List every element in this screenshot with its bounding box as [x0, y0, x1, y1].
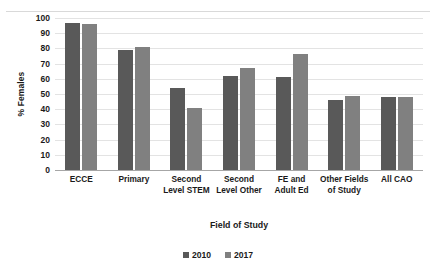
x-axis-title: Field of Study — [55, 220, 423, 230]
x-tick-label: Second Level Other — [213, 174, 266, 196]
bar[interactable] — [293, 54, 308, 170]
bar[interactable] — [187, 108, 202, 170]
y-tick-label: 40 — [41, 105, 50, 114]
legend-item[interactable]: 2017 — [225, 250, 253, 260]
x-tick-label: Primary — [108, 174, 161, 196]
y-tick-label: 90 — [41, 29, 50, 38]
bar[interactable] — [240, 68, 255, 170]
y-axis-title-text: % Females — [16, 72, 26, 117]
y-axis-title: % Females — [14, 58, 28, 130]
x-tick-label: ECCE — [55, 174, 108, 196]
y-tick-label: 100 — [36, 14, 50, 23]
x-tick-label: All CAO — [370, 174, 423, 196]
bar-group — [55, 18, 108, 170]
legend-item[interactable]: 2010 — [183, 250, 211, 260]
legend-swatch-icon — [225, 252, 231, 258]
y-tick-label: 60 — [41, 75, 50, 84]
bar[interactable] — [328, 100, 343, 170]
bar[interactable] — [223, 76, 238, 170]
y-tick-label: 70 — [41, 59, 50, 68]
bar-chart: % Females 1009080706050403020100 ECCEPri… — [0, 0, 436, 276]
y-tick-label: 50 — [41, 90, 50, 99]
bar[interactable] — [135, 47, 150, 170]
bar-group — [213, 18, 266, 170]
x-axis-tick-labels: ECCEPrimarySecond Level STEMSecond Level… — [55, 174, 423, 196]
y-tick-label: 80 — [41, 44, 50, 53]
x-tick-label: Second Level STEM — [160, 174, 213, 196]
bar[interactable] — [118, 50, 133, 170]
y-tick-label: 20 — [41, 135, 50, 144]
legend-label: 2017 — [234, 250, 253, 260]
legend-label: 2010 — [192, 250, 211, 260]
bar[interactable] — [170, 88, 185, 170]
bar[interactable] — [82, 24, 97, 170]
bar-group — [108, 18, 161, 170]
bar[interactable] — [276, 77, 291, 170]
bar-group — [370, 18, 423, 170]
y-axis-tick-labels: 1009080706050403020100 — [28, 18, 50, 170]
bar[interactable] — [345, 96, 360, 170]
chart-legend: 20102017 — [0, 250, 436, 260]
bar-group — [160, 18, 213, 170]
bar[interactable] — [381, 97, 396, 170]
bar-group — [318, 18, 371, 170]
x-tick-label: FE and Adult Ed — [265, 174, 318, 196]
bar-group — [265, 18, 318, 170]
figure-top-rule — [6, 11, 430, 12]
y-tick-label: 10 — [41, 151, 50, 160]
bar[interactable] — [65, 23, 80, 170]
bar[interactable] — [398, 97, 413, 170]
x-tick-label: Other Fields of Study — [318, 174, 371, 196]
y-tick-label: 0 — [45, 166, 50, 175]
y-tick-label: 30 — [41, 120, 50, 129]
bar-groups — [55, 18, 423, 170]
plot-area — [55, 18, 423, 171]
legend-swatch-icon — [183, 252, 189, 258]
